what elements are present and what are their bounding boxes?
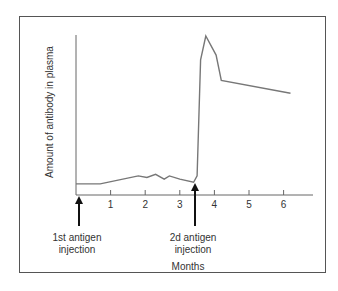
tick-label-6: 6	[281, 199, 287, 210]
tick-label-2: 2	[142, 199, 148, 210]
tick-label-5: 5	[246, 199, 252, 210]
x-tick-labels: 1 2 3 4 5 6	[108, 199, 287, 210]
second-injection-arrow	[191, 183, 199, 226]
tick-label-4: 4	[212, 199, 218, 210]
tick-label-3: 3	[177, 199, 183, 210]
first-injection-arrow	[75, 196, 83, 226]
y-axis-label: Amount of antibody in plasma	[44, 46, 55, 178]
first-injection-label-line1: 1st antigen	[53, 232, 102, 243]
antibody-response-chart: 1 2 3 4 5 6 Amount of antibody in plasma…	[0, 0, 338, 291]
antibody-curve	[76, 36, 291, 184]
first-injection-label-line2: injection	[59, 244, 96, 255]
tick-label-1: 1	[108, 199, 114, 210]
x-axis-label: Months	[172, 261, 205, 272]
second-injection-label-line1: 2d antigen	[170, 232, 217, 243]
second-injection-label-line2: injection	[175, 244, 212, 255]
